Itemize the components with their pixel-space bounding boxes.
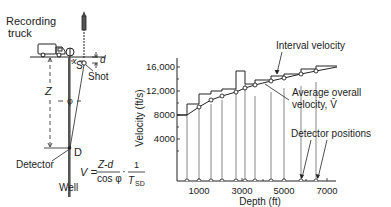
- label-shot: Shot: [88, 71, 109, 82]
- truck-label-line2: truck: [8, 27, 32, 39]
- label-D: D: [74, 146, 82, 158]
- y-tick-8000: 8000: [154, 109, 175, 120]
- label-Z: Z: [44, 85, 53, 97]
- seismic-velocity-figure: Recording truck S Shot: [0, 0, 391, 207]
- svg-text:1: 1: [134, 160, 139, 170]
- annotation-average-velocity-line1: Average overall: [292, 87, 361, 98]
- y-tick-16000: 16,000: [146, 61, 175, 72]
- truck-label-line1: Recording: [6, 15, 56, 27]
- annotation-interval-velocity: Interval velocity: [276, 40, 345, 51]
- x-tick-5000: 5000: [273, 185, 294, 196]
- shot-rig-icon: [82, 11, 86, 58]
- svg-text:V =: V =: [80, 166, 97, 178]
- ray-path: [70, 65, 84, 148]
- label-S: S: [76, 60, 83, 71]
- label-well: Well: [59, 182, 78, 193]
- svg-text:T: T: [128, 175, 135, 186]
- velocity-formula: V = Z-d cos φ · 1 T SD: [80, 159, 145, 187]
- well-diagram: Recording truck S Shot: [6, 11, 145, 197]
- annotation-detector-positions: Detector positions: [291, 128, 371, 139]
- svg-text:Z-d: Z-d: [97, 159, 113, 170]
- x-tick-7000: 7000: [316, 185, 337, 196]
- x-axis-label: Depth (ft): [239, 196, 281, 207]
- detector-point: [68, 146, 72, 150]
- svg-text:cos φ: cos φ: [97, 173, 122, 184]
- label-detector: Detector: [16, 159, 54, 170]
- x-tick-1000: 1000: [188, 185, 209, 196]
- label-phi: φ: [67, 96, 73, 106]
- svg-text:·: ·: [122, 165, 126, 177]
- x-tick-3000: 3000: [231, 185, 252, 196]
- velocity-depth-chart: 16,000 12,000 8000 4000 Velocity (ft/s) …: [134, 40, 371, 207]
- annotation-average-velocity-line2: velocity, V̄: [292, 98, 337, 110]
- y-axis-label: Velocity (ft/s): [134, 89, 145, 146]
- svg-text:SD: SD: [135, 180, 145, 187]
- truck-icon: [38, 44, 65, 57]
- label-d: d: [100, 54, 106, 65]
- well-bore: [68, 57, 71, 197]
- y-tick-4000: 4000: [154, 133, 175, 144]
- detector-leader-line: [52, 150, 68, 161]
- y-tick-12000: 12,000: [146, 85, 175, 96]
